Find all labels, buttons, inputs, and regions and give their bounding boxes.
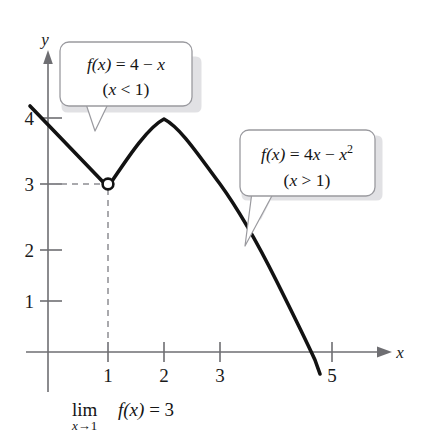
callout-linear-domain: (x < 1) [103, 79, 150, 99]
callout-linear-branch: f(x) = 4 − x (x < 1) [60, 42, 202, 131]
x-axis-arrowhead [377, 347, 392, 358]
callout-linear-formula: f(x) = 4 − x [87, 54, 165, 74]
open-circle-marker [103, 179, 114, 190]
callout-quadratic-branch: f(x) = 4x − x2 (x > 1) [240, 130, 383, 246]
y-tick-label-2: 2 [25, 240, 35, 261]
limit-caption-subscript: x→1 [71, 418, 97, 433]
x-tick-group: 1 2 3 5 [103, 342, 337, 386]
y-tick-label-3: 3 [25, 174, 35, 195]
limit-caption: lim x→1 f(x) = 3 [71, 399, 174, 433]
graph-canvas: 4 3 2 1 1 2 3 5 y x [0, 0, 422, 442]
x-tick-label-3: 3 [215, 365, 225, 386]
y-tick-group: 4 3 2 1 [25, 108, 63, 312]
callout-linear-tail [86, 104, 108, 131]
x-axis-label: x [395, 343, 404, 362]
y-axis-arrowhead [43, 50, 53, 64]
x-tick-label-5: 5 [327, 365, 337, 386]
limit-caption-expression: f(x) = 3 [118, 399, 174, 421]
callout-quadratic-formula: f(x) = 4x − x2 [261, 142, 353, 164]
x-tick-label-2: 2 [159, 365, 169, 386]
y-tick-label-1: 1 [25, 291, 35, 312]
x-tick-label-1: 1 [103, 365, 113, 386]
limit-caption-word: lim [72, 399, 98, 420]
guide-lines-group [50, 184, 108, 350]
limit-graph-figure: 4 3 2 1 1 2 3 5 y x [0, 0, 422, 442]
callout-quadratic-domain: (x > 1) [284, 170, 331, 190]
y-axis-label: y [39, 30, 49, 49]
